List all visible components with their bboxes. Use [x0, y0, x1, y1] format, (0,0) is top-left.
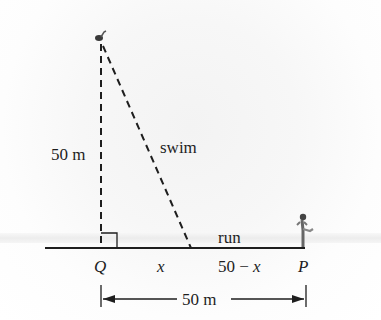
segment-remaining-label: 50 − x	[218, 258, 261, 275]
arrow-left-icon	[103, 295, 115, 303]
point-p-label: P	[298, 258, 308, 275]
point-q-label: Q	[94, 258, 106, 275]
segment-x-label: x	[157, 258, 165, 275]
horizontal-distance-label: 50 m	[182, 291, 216, 308]
arrow-right-icon	[292, 295, 304, 303]
swim-run-diagram: 50 m swim run Q x 50 − x P 50 m	[0, 0, 381, 320]
segment-remaining-variable: x	[253, 257, 261, 276]
swimmer-icon	[95, 31, 106, 41]
run-label: run	[218, 229, 241, 246]
vertical-distance-label: 50 m	[51, 146, 85, 163]
swim-label: swim	[160, 139, 197, 156]
right-angle-icon	[101, 233, 117, 248]
runner-icon	[297, 214, 313, 247]
